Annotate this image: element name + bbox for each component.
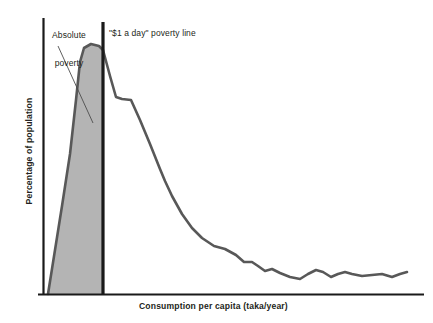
absolute-poverty-annotation: Absolute poverty bbox=[38, 13, 100, 86]
dollar-a-day-poverty-line-annotation: "$1 a day" poverty line bbox=[109, 29, 196, 38]
poverty-distribution-chart: Absolute poverty "$1 a day" poverty line… bbox=[0, 0, 433, 323]
y-axis-label: Percentage of population bbox=[24, 71, 34, 231]
x-axis-label: Consumption per capita (taka/year) bbox=[139, 301, 288, 311]
absolute-poverty-annotation-line1: Absolute bbox=[38, 31, 100, 40]
absolute-poverty-annotation-line2: poverty bbox=[38, 59, 100, 68]
